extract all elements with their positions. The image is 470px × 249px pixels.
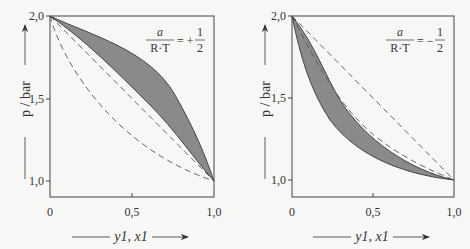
y-tick-1-5: 1,5	[271, 91, 286, 105]
x-tick-1-0: 1,0	[447, 205, 462, 219]
figure: 2,0 1,5 1,0 0 0,5 1,0 a R·T = + 1 2 y1, …	[0, 0, 470, 249]
right-chart: 2,0 1,5 1,0 0 0,5 1,0 a R·T = − 1 2 y1, …	[258, 9, 462, 244]
y-tick-2-0: 2,0	[271, 9, 286, 23]
annotation-numerator: a	[157, 25, 163, 39]
x-tick-0-5: 0,5	[366, 205, 381, 219]
y-axis-label: p / bar	[18, 81, 33, 117]
annotation-denominator: R·T	[150, 41, 170, 55]
annotation-frac-den: 2	[197, 41, 203, 55]
annotation-sign: = +	[177, 34, 194, 48]
annotation-frac-num: 1	[437, 25, 443, 39]
annotation-numerator: a	[397, 25, 403, 39]
y-tick-2-0: 2,0	[29, 9, 44, 23]
x-axis-label: y1, x1	[112, 229, 147, 244]
x-tick-0: 0	[47, 205, 53, 219]
annotation-frac-den: 2	[437, 41, 443, 55]
x-tick-1-0: 1,0	[207, 205, 222, 219]
y-tick-1-0: 1,0	[271, 173, 286, 187]
x-axis-label: y1, x1	[353, 229, 388, 244]
annotation-sign: = −	[417, 34, 434, 48]
y-tick-1-0: 1,0	[29, 174, 44, 188]
annotation-denominator: R·T	[390, 41, 410, 55]
x-tick-0: 0	[289, 205, 295, 219]
annotation-frac-num: 1	[197, 25, 203, 39]
y-axis-label: p / bar	[258, 81, 273, 117]
x-tick-0-5: 0,5	[125, 205, 140, 219]
left-chart: 2,0 1,5 1,0 0 0,5 1,0 a R·T = + 1 2 y1, …	[18, 9, 222, 244]
